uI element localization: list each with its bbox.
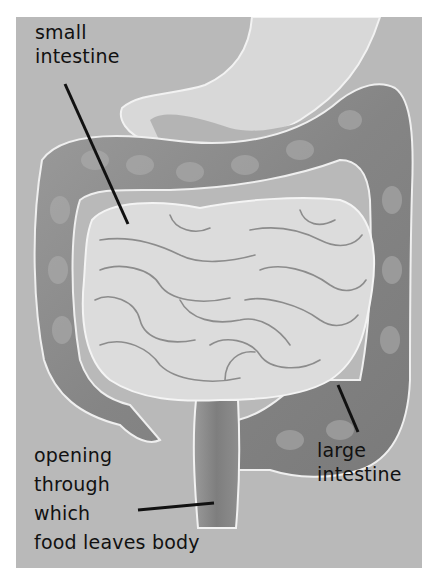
diagram-panel: small intestine large intestine opening … <box>16 17 422 568</box>
opening-label-line-1: opening <box>34 441 200 470</box>
large-intestine-label: large intestine <box>317 438 402 486</box>
opening-label-line-3: which <box>34 499 200 528</box>
small-intestine-shape <box>83 198 374 401</box>
small-intestine-label-line-2: intestine <box>35 44 120 68</box>
small-intestine-label: small intestine <box>35 20 120 68</box>
opening-label-line-2: through <box>34 470 200 499</box>
rectum-shape <box>194 400 239 528</box>
opening-label-line-4: food leaves body <box>34 528 200 557</box>
large-intestine-label-line-2: intestine <box>317 462 402 486</box>
small-intestine-label-line-1: small <box>35 20 120 44</box>
opening-label: opening through which food leaves body <box>34 441 200 557</box>
large-intestine-label-line-1: large <box>317 438 402 462</box>
